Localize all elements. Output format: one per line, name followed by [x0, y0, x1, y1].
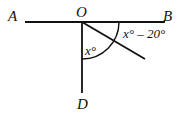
- point-label-B: B: [163, 8, 172, 24]
- point-label-O: O: [76, 4, 87, 20]
- angle-label-x-minus-20: x° – 20°: [122, 26, 165, 41]
- geometry-diagram: A O B D x° x° – 20°: [0, 0, 179, 118]
- angle-label-x: x°: [84, 43, 96, 58]
- point-label-A: A: [7, 8, 18, 24]
- point-label-D: D: [76, 96, 88, 112]
